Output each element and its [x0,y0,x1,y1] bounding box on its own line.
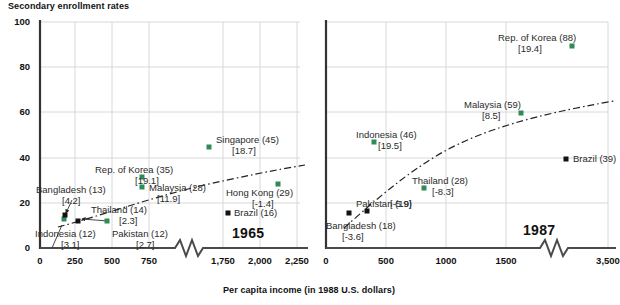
point-hongkong-1965[interactable] [276,182,281,187]
point-pakistan-1965[interactable] [76,219,81,224]
label-indonesia-1987-line2: [19.5] [356,140,417,151]
panel-1965: 100 80 60 40 20 0 0 250 500 750 1,750 2,… [0,0,310,305]
x-tick-1965-0: 0 [37,255,42,266]
point-pakistan-1987[interactable] [365,209,370,214]
label-korea-1987: Rep. of Korea (88) [19.4] [498,32,576,54]
label-brazil-1965: Brazil (16) [234,207,277,218]
label-malaysia-1987-line1: Malaysia (59) [464,99,521,110]
y-tick-40: 40 [4,152,30,163]
point-brazil-1965[interactable] [226,211,231,216]
x-tick-1965-250: 250 [67,255,83,266]
label-malaysia-1965-line1: Malaysia (28) [149,182,206,193]
x-tick-1965-750: 750 [141,255,157,266]
y-tick-100: 100 [4,16,30,27]
x-tick-1965-2000: 2,000 [248,255,272,266]
label-malaysia-1965-line2: [11.9] [149,193,206,204]
label-pakistan-1965-line1: Pakistan (12) [112,228,168,239]
label-bangladesh-1965: Bangladesh (13) [4.2] [36,184,106,206]
year-label-1987: 1987 [523,222,555,238]
label-brazil-1965-line1: Brazil (16) [234,207,277,218]
x-tick-1965-500: 500 [104,255,120,266]
y-tick-0: 0 [4,242,30,253]
label-singapore-1965: Singapore (45) [18.7] [216,134,279,156]
label-indonesia-1965-line2: [3.1] [35,239,96,250]
x-tick-1987-500: 500 [378,255,394,266]
label-thailand-1965-line1: Thailand (14) [91,204,147,215]
label-thailand-1987-line2: [-8.3] [412,186,468,197]
y-tick-80: 80 [4,61,30,72]
label-thailand-1965-line2: [2.3] [91,215,147,226]
label-brazil-1987-line1: Brazil (39) [573,153,616,164]
label-singapore-1965-line1: Singapore (45) [216,134,279,145]
point-bangladesh-1965[interactable] [63,213,68,218]
x-tick-1987-1000: 1000 [435,255,456,266]
label-indonesia-1965-line1: Indonesia (12) [35,228,96,239]
label-bangladesh-1987: Bangladesh (18) [-3.6] [326,220,396,242]
label-pakistan-1987: Pakistan (19) [-5.9] [356,198,412,209]
label-korea-1987-line2: [19.4] [498,43,576,54]
label-bangladesh-1987-line1: Bangladesh (18) [326,220,396,231]
label-korea-1987-line1: Rep. of Korea (88) [498,32,576,43]
point-bangladesh-1987[interactable] [347,211,352,216]
panel-1987: 0 500 1000 1500 3,500 Rep. of Korea (88)… [318,0,618,305]
label-hongkong-1965-line1: Hong Kong (29) [226,187,293,198]
label-thailand-1987-line1: Thailand (28) [412,175,468,186]
label-bangladesh-1987-line2: [-3.6] [326,231,396,242]
point-brazil-1987[interactable] [564,157,569,162]
point-singapore-1965[interactable] [207,145,212,150]
label-thailand-1987: Thailand (28) [-8.3] [412,175,468,197]
x-tick-1987-1500: 1500 [495,255,516,266]
label-indonesia-1987-line1: Indonesia (46) [356,129,417,140]
label-pakistan-1965-line2: [2.7] [112,239,168,250]
label-bangladesh-1965-line1: Bangladesh (13) [36,184,106,195]
x-tick-1987-3500: 3,500 [596,255,620,266]
y-tick-60: 60 [4,106,30,117]
x-tick-1965-1750: 1,750 [211,255,235,266]
label-korea-1965-line1: Rep. of Korea (35) [95,164,173,175]
label-indonesia-1965: Indonesia (12) [3.1] [35,228,96,250]
x-axis-title: Per capita income (in 1988 U.S. dollars) [0,285,618,295]
x-tick-1987-0: 0 [323,255,328,266]
year-label-1965: 1965 [232,225,264,241]
label-indonesia-1987: Indonesia (46) [19.5] [356,129,417,151]
label-pakistan-1965: Pakistan (12) [2.7] [112,228,168,250]
x-tick-1965-2250: 2,250 [285,255,309,266]
label-malaysia-1987-line2: [8.5] [464,110,521,121]
label-brazil-1987: Brazil (39) [573,153,616,164]
label-thailand-1965: Thailand (14) [2.3] [91,204,147,226]
label-singapore-1965-line2: [18.7] [216,145,279,156]
label-malaysia-1965: Malaysia (28) [11.9] [149,182,206,204]
label-hongkong-1965: Hong Kong (29) [-1.4] [226,187,293,209]
label-malaysia-1987: Malaysia (59) [8.5] [464,99,521,121]
y-tick-20: 20 [4,197,30,208]
